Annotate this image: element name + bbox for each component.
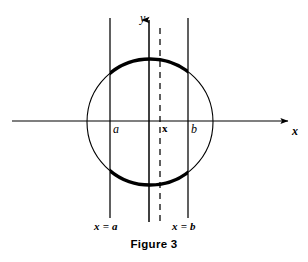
line-label-x-equals-b: x = b bbox=[172, 221, 196, 232]
x-axis-label: x bbox=[292, 125, 298, 137]
figure-caption: Figure 3 bbox=[0, 238, 308, 250]
point-label-b: b bbox=[191, 123, 197, 135]
point-label-x: x bbox=[162, 123, 168, 134]
line-label-x-equals-a: x = a bbox=[94, 221, 118, 232]
figure-drawing bbox=[0, 0, 308, 262]
figure-container: y x a x b x = a x = b Figure 3 bbox=[0, 0, 308, 262]
point-label-a: a bbox=[113, 123, 119, 135]
y-axis-label: y bbox=[140, 12, 145, 24]
